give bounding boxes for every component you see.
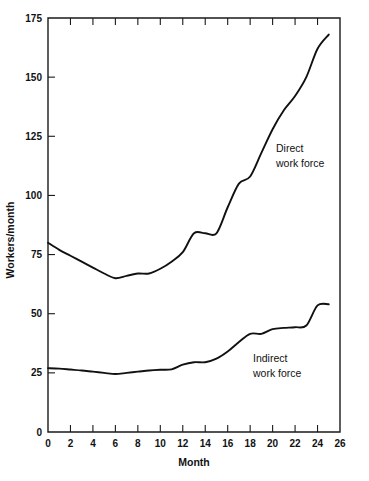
y-tick-label: 175 (25, 13, 42, 24)
indirect-label-line1: Indirect (253, 352, 288, 364)
x-tick-label: 24 (312, 438, 324, 449)
direct-label-line1: Direct (276, 142, 304, 154)
x-axis-title: Month (178, 456, 210, 468)
x-tick-label: 0 (45, 438, 51, 449)
x-tick-label: 20 (267, 438, 279, 449)
y-tick-label: 50 (31, 308, 43, 319)
y-tick-label: 25 (31, 367, 43, 378)
y-axis-title: Workers/month (4, 202, 16, 279)
x-tick-label: 18 (245, 438, 257, 449)
y-tick-label: 150 (25, 72, 42, 83)
y-tick-label: 125 (25, 131, 42, 142)
x-tick-label: 12 (177, 438, 189, 449)
direct-label-line2: work force (275, 157, 325, 169)
x-tick-label: 10 (155, 438, 167, 449)
x-tick-label: 8 (135, 438, 141, 449)
chart-background (0, 0, 369, 481)
x-tick-label: 4 (90, 438, 96, 449)
chart-figure: 0246810121416182022242602550751001251501… (0, 0, 369, 481)
y-tick-label: 100 (25, 190, 42, 201)
x-tick-label: 6 (113, 438, 119, 449)
x-tick-label: 2 (68, 438, 74, 449)
x-tick-label: 16 (222, 438, 234, 449)
indirect-label-line2: work force (252, 367, 302, 379)
workforce-line-chart: 0246810121416182022242602550751001251501… (0, 0, 369, 481)
x-tick-label: 14 (200, 438, 212, 449)
x-tick-label: 26 (334, 438, 346, 449)
x-tick-label: 22 (290, 438, 302, 449)
y-tick-label: 0 (36, 427, 42, 438)
y-tick-label: 75 (31, 249, 43, 260)
